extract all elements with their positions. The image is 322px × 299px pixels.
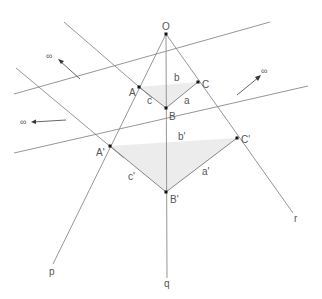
point-b-prime [165, 191, 168, 194]
arrow-left [33, 120, 66, 122]
arrowhead-left-icon [31, 120, 36, 125]
label-c-prime: C' [241, 134, 250, 145]
line-r [166, 34, 293, 213]
point-o [165, 33, 168, 36]
line-q [166, 34, 167, 278]
label-line-r: r [294, 213, 298, 224]
infinity-upper-right: ∞ [261, 66, 267, 76]
label-a: A [129, 87, 136, 98]
perspective-diagram: O A B C A' B' C' b c a b' c' a' p q r ∞ … [0, 0, 322, 299]
label-side-a-prime: a' [202, 166, 210, 177]
point-c [197, 81, 200, 84]
label-line-p: p [49, 266, 55, 277]
label-side-a: a [184, 95, 190, 106]
point-b [165, 107, 168, 110]
arrow-upper-right [237, 77, 259, 95]
label-a-prime: A' [96, 147, 105, 158]
infinity-left: ∞ [20, 117, 26, 127]
point-a [138, 86, 141, 89]
line-through-a2 [16, 68, 124, 158]
label-o: O [162, 21, 170, 32]
label-side-b: b [174, 72, 180, 83]
arrow-upper-left [60, 61, 80, 79]
label-side-b-prime: b' [178, 131, 186, 142]
triangle-abc-prime-fill [110, 138, 237, 192]
label-b-prime: B' [170, 194, 179, 205]
infinity-upper-left: ∞ [46, 51, 52, 61]
point-c-prime [236, 137, 239, 140]
label-line-q: q [164, 278, 170, 289]
label-side-c: c [147, 95, 152, 106]
label-c: C [202, 79, 209, 90]
label-b: B [169, 111, 176, 122]
label-side-c-prime: c' [128, 171, 135, 182]
point-a-prime [109, 145, 112, 148]
